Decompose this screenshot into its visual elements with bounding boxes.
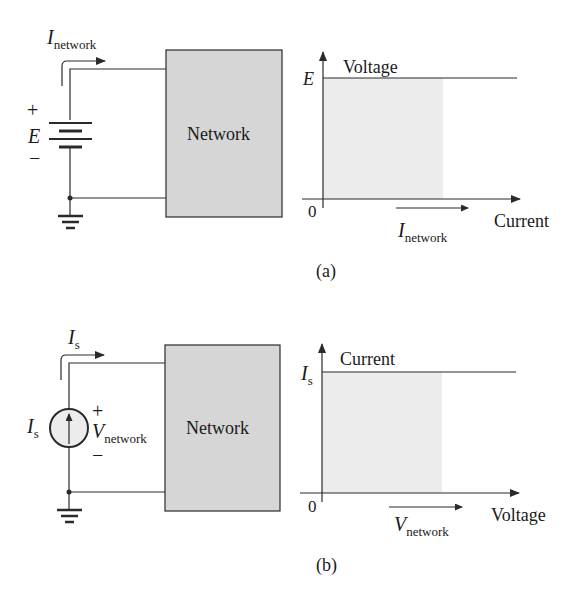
y-axis-label-b: Current [340,350,395,368]
current-symbol: I [68,326,75,348]
network-label-b: Network [186,419,249,437]
origin-label-b: 0 [308,498,317,515]
voltage-label-b: Vnetwork [92,421,147,441]
caption-b: (b) [316,556,337,574]
y-axis-label-a: Voltage [343,58,398,76]
current-symbol: I [301,362,308,384]
bottom-wire-b [69,447,165,492]
x-axis-label-b: Voltage [491,506,546,524]
graph-arrow-label-b: Vnetwork [394,514,449,534]
ground-icon-b [57,510,82,522]
minus-sign-b: − [92,445,103,465]
ground-icon-a [58,216,83,228]
current-symbol: I [47,26,54,48]
battery-icon [49,123,92,147]
level-label-is: Is [301,363,313,383]
origin-label-a: 0 [308,203,317,220]
plus-sign-a: + [27,100,38,120]
current-subscript: s [308,373,313,388]
graph-a-fill [323,78,443,199]
caption-a: (a) [316,262,336,280]
current-label-a: Inetwork [47,27,96,47]
current-subscript: network [405,230,448,245]
voltage-subscript: network [406,524,449,539]
graph-b-fill [322,372,442,493]
current-subscript: s [75,337,80,352]
plus-sign-b: + [92,401,103,421]
level-label-e: E [303,70,314,88]
voltage-symbol: V [92,420,104,442]
current-source-icon [50,409,88,447]
top-wire-a [70,69,166,120]
voltage-subscript: network [104,431,147,446]
bottom-wire-a [70,148,166,198]
current-subscript: network [54,37,97,52]
current-arrow-b [61,355,104,380]
network-label-a: Network [187,125,250,143]
source-symbol-e: E [28,126,40,146]
current-symbol: I [398,219,405,241]
current-label-b: Is [68,327,80,347]
source-symbol: I [27,415,34,437]
voltage-symbol: V [394,513,406,535]
graph-a [302,52,520,208]
source-label-b: Is [27,416,39,436]
graph-arrow-label-a: Inetwork [398,220,447,240]
graph-b [300,344,519,507]
top-wire-b [69,363,165,409]
minus-sign-a: − [29,148,40,168]
source-subscript: s [34,426,39,441]
current-arrow-a [62,61,105,86]
x-axis-label-a: Current [494,212,549,230]
